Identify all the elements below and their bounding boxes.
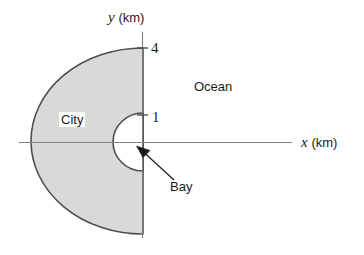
y-axis-variable: y [108, 9, 115, 25]
y-axis-unit: (km) [118, 10, 144, 25]
ocean-region-label: Ocean [194, 80, 232, 93]
x-axis-unit: (km) [311, 135, 337, 150]
bay-annotation-label: Bay [170, 180, 192, 193]
y-axis-label: y (km) [108, 10, 144, 25]
y-tick-label-1: 1 [152, 110, 160, 125]
diagram-svg [0, 0, 364, 255]
figure-canvas: City Ocean Bay 4 1 y (km) x (km) [0, 0, 364, 255]
x-axis-label: x (km) [301, 135, 337, 150]
y-tick-label-4: 4 [151, 41, 159, 56]
x-axis-variable: x [301, 134, 308, 150]
city-region-label: City [59, 112, 85, 127]
